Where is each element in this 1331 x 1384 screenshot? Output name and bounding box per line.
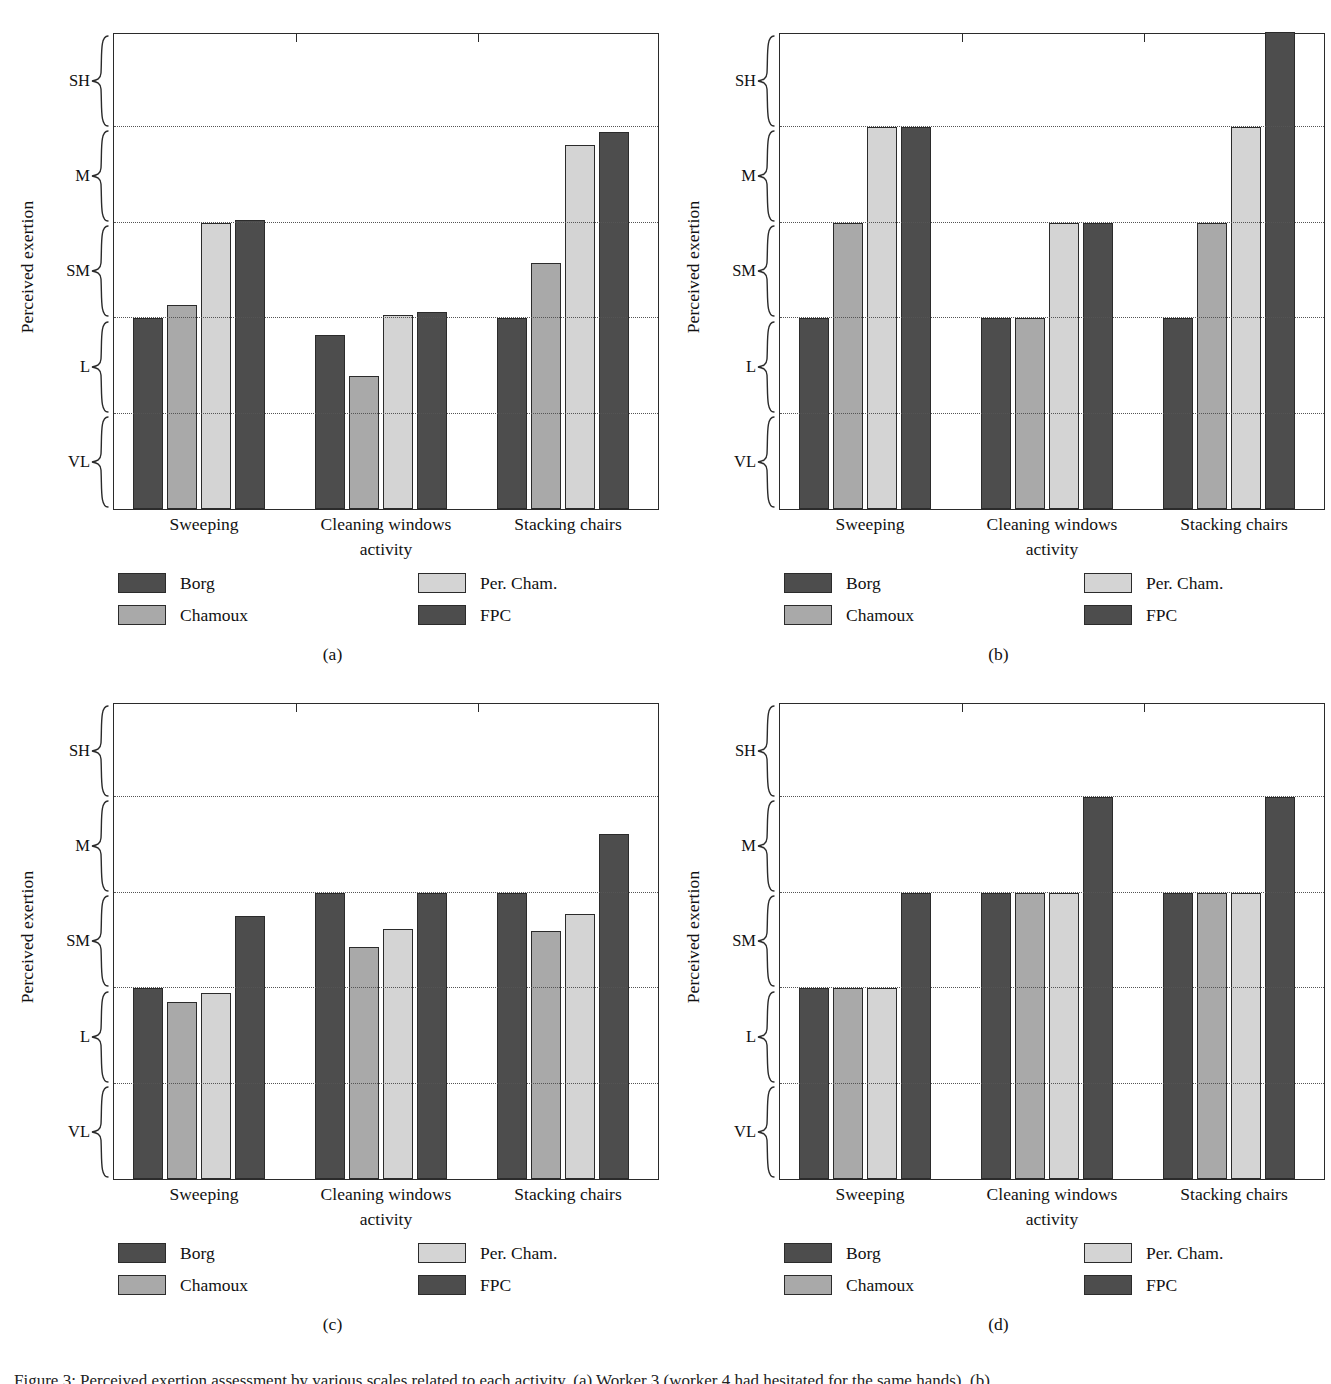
legend-swatch: [1084, 605, 1132, 625]
bars-d: [780, 704, 1324, 1179]
bar: [1231, 893, 1261, 1179]
y-axis-label: L: [60, 359, 90, 376]
legend-item: FPC: [1084, 1272, 1177, 1298]
bar: [167, 305, 197, 509]
bar: [565, 914, 595, 1179]
legend-label: Per. Cham.: [1146, 1243, 1223, 1264]
x-axis-title-a: activity: [113, 539, 659, 560]
legend-label: Chamoux: [846, 605, 914, 626]
bar: [1015, 893, 1045, 1179]
y-axis-brace-group: SH: [60, 703, 112, 798]
gridline: [780, 987, 1324, 988]
legend-item: Borg: [784, 570, 881, 596]
brace-icon: [756, 321, 778, 413]
legend-swatch: [1084, 573, 1132, 593]
x-axis-tick: [1144, 704, 1145, 712]
legend-item: Chamoux: [784, 602, 914, 628]
legend-swatch: [784, 1275, 832, 1295]
legend-swatch: [418, 1275, 466, 1295]
panel-tag-a: (a): [0, 644, 665, 665]
y-axis-brace-group: VL: [726, 415, 778, 510]
gridline: [114, 126, 658, 127]
y-axis-label: VL: [726, 454, 756, 471]
gridline: [114, 317, 658, 318]
brace-icon: [756, 991, 778, 1083]
legend-item: Per. Cham.: [418, 1240, 557, 1266]
legend-swatch: [118, 1275, 166, 1295]
y-axis-label: SM: [726, 933, 756, 950]
y-axis-title: Perceived exertion: [28, 442, 50, 772]
y-axis-brace-group: SH: [726, 703, 778, 798]
legend-label: Per. Cham.: [480, 1243, 557, 1264]
plot-area-a: [113, 33, 659, 510]
brace-icon: [756, 800, 778, 892]
bar: [901, 127, 931, 509]
x-axis-tick: [962, 704, 963, 712]
y-axis-label: SH: [726, 72, 756, 89]
bar: [235, 220, 265, 509]
gridline: [780, 413, 1324, 414]
x-axis-tick: [478, 704, 479, 712]
bar: [497, 893, 527, 1179]
legend-item: Chamoux: [118, 1272, 248, 1298]
y-axis-label: M: [60, 168, 90, 185]
x-axis-category-label: Cleaning windows: [295, 514, 477, 535]
figure-perceived-exertion: Perceived exertion SH M SM L VL Sweeping…: [0, 0, 1331, 1384]
y-axis-label: M: [60, 838, 90, 855]
legend-swatch: [1084, 1275, 1132, 1295]
x-axis-tick: [296, 34, 297, 42]
legend-label: Borg: [180, 573, 215, 594]
y-axis-braces: SH M SM L VL: [726, 703, 778, 1180]
y-axis-label: SM: [60, 263, 90, 280]
gridline: [780, 126, 1324, 127]
legend-label: Chamoux: [180, 1275, 248, 1296]
brace-icon: [756, 225, 778, 317]
brace-icon: [90, 991, 112, 1083]
x-axis-title-c: activity: [113, 1209, 659, 1230]
brace-icon: [90, 705, 112, 797]
x-axis-category-label: Stacking chairs: [477, 514, 659, 535]
y-axis-label: SH: [60, 742, 90, 759]
panel-c: Perceived exertion SH M SM L VL Sweeping…: [0, 684, 665, 1354]
brace-icon: [90, 321, 112, 413]
gridline: [780, 222, 1324, 223]
bars-a: [114, 34, 658, 509]
legend-label: FPC: [480, 605, 511, 626]
bar: [833, 223, 863, 509]
gridline: [114, 413, 658, 414]
x-axis-category-label: Cleaning windows: [961, 1184, 1143, 1205]
legend-b: BorgChamouxPer. Cham.FPC: [784, 570, 1244, 636]
bar: [1163, 893, 1193, 1179]
x-axis-title-b: activity: [779, 539, 1325, 560]
gridline: [780, 1083, 1324, 1084]
x-axis-category-label: Cleaning windows: [295, 1184, 477, 1205]
brace-icon: [90, 35, 112, 127]
y-axis-label: L: [60, 1029, 90, 1046]
y-axis-label: VL: [60, 1124, 90, 1141]
gridline: [780, 892, 1324, 893]
legend-swatch: [418, 1243, 466, 1263]
gridline: [114, 222, 658, 223]
legend-item: Per. Cham.: [1084, 1240, 1223, 1266]
y-axis-brace-group: M: [726, 798, 778, 893]
y-axis-brace-group: SH: [60, 33, 112, 128]
plot-area-c: [113, 703, 659, 1180]
brace-icon: [90, 1086, 112, 1178]
x-axis-title-d: activity: [779, 1209, 1325, 1230]
y-axis-braces: SH M SM L VL: [60, 703, 112, 1180]
legend-item: Per. Cham.: [1084, 570, 1223, 596]
y-axis-label: M: [726, 838, 756, 855]
panel-b: Perceived exertion SH M SM L VL Sweeping…: [666, 14, 1331, 684]
x-axis-category-label: Sweeping: [779, 1184, 961, 1205]
bar: [901, 893, 931, 1179]
legend-label: Chamoux: [180, 605, 248, 626]
panel-tag-c: (c): [0, 1314, 665, 1335]
legend-swatch: [418, 573, 466, 593]
y-axis-brace-group: L: [60, 989, 112, 1084]
legend-item: FPC: [1084, 602, 1177, 628]
bar: [1231, 127, 1261, 509]
y-axis-label: M: [726, 168, 756, 185]
legend-swatch: [1084, 1243, 1132, 1263]
x-axis-category-label: Stacking chairs: [477, 1184, 659, 1205]
y-axis-label: SM: [726, 263, 756, 280]
